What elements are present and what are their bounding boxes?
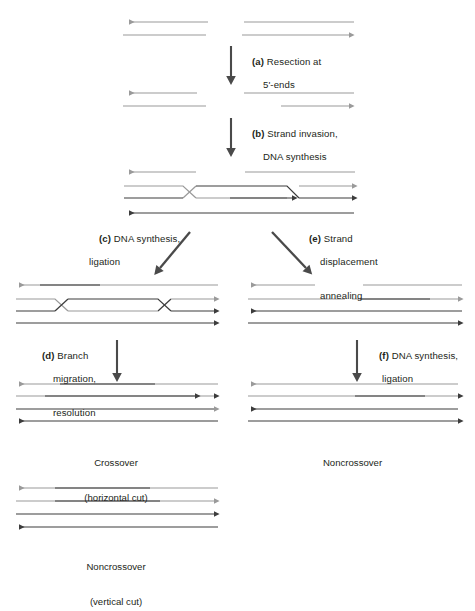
step-label-a: (a) Resection at 5'-ends — [241, 45, 321, 113]
step-label-c: (c) DNA synthesis, ligation — [88, 222, 180, 290]
step-tag-c: (c) — [99, 233, 111, 244]
step-text-b-line2: DNA synthesis — [241, 151, 338, 162]
step-text-c-line2: ligation — [88, 256, 180, 267]
step-text-e-line3: annealing — [298, 290, 378, 301]
step-text-d-line2: migration, — [31, 373, 96, 384]
step-tag-e: (e) — [309, 233, 321, 244]
outcome-noncrossover-vertical-line2: (vertical cut) — [16, 596, 216, 608]
step-tag-d: (d) — [42, 350, 55, 361]
outcome-crossover: Crossover (horizontal cut) — [16, 434, 216, 527]
step-text-e-line1: Strand — [324, 233, 353, 244]
step-text-b-line1: Strand invasion, — [267, 128, 337, 139]
step-text-d-line1: Branch — [57, 350, 88, 361]
step-tag-b: (b) — [252, 128, 265, 139]
outcome-crossover-line1: Crossover — [16, 457, 216, 469]
step-text-c-line1: DNA synthesis, — [114, 233, 180, 244]
step-label-d: (d) Branch migration, resolution — [31, 339, 96, 442]
outcome-noncrossover-vertical-line1: Noncrossover — [16, 561, 216, 573]
step-tag-f: (f) — [379, 350, 389, 361]
step-text-f-line2: ligation — [368, 373, 458, 384]
step-text-f-line1: DNA synthesis, — [392, 350, 458, 361]
panel-broken-duplex — [123, 22, 354, 35]
outcome-noncrossover-vertical: Noncrossover (vertical cut) — [16, 538, 216, 611]
step-text-a-line2: 5'-ends — [241, 79, 321, 90]
outcome-noncrossover-sdsa: Noncrossover — [250, 434, 455, 492]
step-text-a-line1: Resection at — [267, 56, 321, 67]
step-label-e: (e) Strand displacement annealing — [298, 222, 378, 325]
step-text-e-line2: displacement — [298, 256, 378, 267]
outcome-noncrossover-sdsa-line1: Noncrossover — [250, 457, 455, 469]
step-label-b: (b) Strand invasion, DNA synthesis — [241, 117, 338, 185]
step-text-d-line3: resolution — [31, 407, 96, 418]
step-label-f: (f) DNA synthesis, ligation — [368, 339, 458, 407]
panel-double-holliday — [16, 285, 218, 323]
outcome-crossover-line2: (horizontal cut) — [16, 492, 216, 504]
step-tag-a: (a) — [252, 56, 264, 67]
